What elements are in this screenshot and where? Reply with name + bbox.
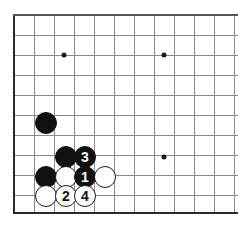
white-stone-unnumbered-right xyxy=(94,166,116,188)
stone-move-number-4: 4 xyxy=(81,189,89,203)
stone-move-number-2: 2 xyxy=(62,189,70,203)
white-stone-move-4: 4 xyxy=(74,185,96,207)
white-stone-unnumbered-bottom-left xyxy=(35,185,57,207)
stone-layer: 3124 xyxy=(0,0,238,226)
stone-move-number-1: 1 xyxy=(81,170,89,184)
black-stone-move-3: 3 xyxy=(74,146,96,168)
stone-move-number-3: 3 xyxy=(81,150,89,164)
black-stone-corner-approach xyxy=(35,112,57,134)
go-board-diagram: 3124 xyxy=(0,0,238,226)
